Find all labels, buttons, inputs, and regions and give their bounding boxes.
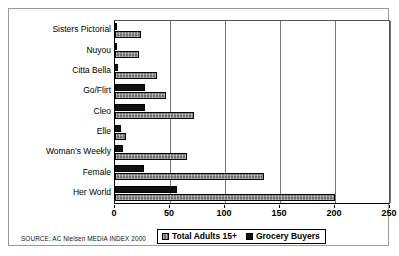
bar-grocery-buyers [115,64,118,71]
legend-swatch-grocery [246,233,253,240]
x-axis: 050100150200250 [114,205,390,221]
legend-item: Total Adults 15+ [162,231,237,241]
bar-group [115,43,389,63]
bar-group [115,23,389,43]
bar-group [115,145,389,165]
plot-area [114,20,390,204]
category-label: Elle [11,127,111,136]
bar-total-adults [115,173,264,180]
x-tick-label: 250 [381,208,396,219]
bar-grocery-buyers [115,125,121,132]
bar-group [115,64,389,84]
category-label: Citta Bella [11,66,111,75]
bar-group [115,104,389,124]
bar-total-adults [115,31,141,38]
bar-grocery-buyers [115,43,117,50]
bar-total-adults [115,112,194,119]
legend-label: Total Adults 15+ [172,231,237,241]
category-label: Go/Flirt [11,86,111,95]
bar-total-adults [115,51,139,58]
x-tick-label: 0 [111,208,116,219]
x-tick-label: 200 [326,208,341,219]
y-axis-category-labels: Sisters PictorialNuyouCitta BellaGo/Flir… [9,20,111,204]
bar-grocery-buyers [115,23,117,30]
category-label: Her World [11,188,111,197]
bar-group [115,125,389,145]
bar-total-adults [115,72,157,79]
bar-total-adults [115,194,335,201]
bar-total-adults [115,153,187,160]
category-label: Cleo [11,107,111,116]
x-tick-label: 150 [271,208,286,219]
bar-group [115,84,389,104]
bar-total-adults [115,92,166,99]
bar-grocery-buyers [115,165,144,172]
source-note: SOURCE: AC Nielsen MEDIA INDEX 2000 [21,235,146,242]
bar-grocery-buyers [115,84,145,91]
chart-legend: Total Adults 15+Grocery Buyers [157,229,326,244]
category-label: Sisters Pictorial [11,25,111,34]
legend-item: Grocery Buyers [246,231,320,241]
category-label: Nuyou [11,46,111,55]
bar-group [115,186,389,206]
bar-grocery-buyers [115,186,177,193]
bar-group [115,165,389,185]
x-tick-label: 100 [216,208,231,219]
gridline-250 [390,21,391,203]
category-label: Woman's Weekly [11,147,111,156]
x-tick-label: 50 [164,208,174,219]
bar-grocery-buyers [115,104,145,111]
legend-swatch-adults [162,233,169,240]
bar-total-adults [115,133,126,140]
chart-container: Sisters PictorialNuyouCitta BellaGo/Flir… [8,8,389,246]
bar-grocery-buyers [115,145,123,152]
category-label: Female [11,168,111,177]
legend-label: Grocery Buyers [256,231,320,241]
